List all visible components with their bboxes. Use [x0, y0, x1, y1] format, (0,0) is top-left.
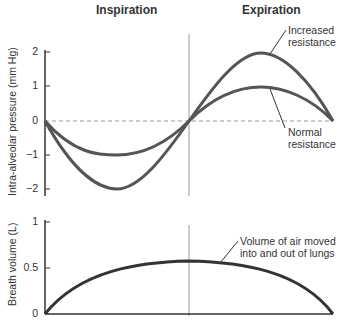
bottom-y-label: Breath volume (L) — [6, 223, 18, 306]
tick-label: 0 — [8, 307, 38, 319]
chart-svg — [0, 0, 347, 326]
chart-root: Inspiration Expiration 2 1 0 −1 −2 Intra… — [0, 0, 347, 326]
annotation-volume: Volume of air moved into and out of lung… — [240, 235, 336, 259]
header-expiration: Expiration — [242, 3, 301, 17]
top-y-label: Intra-alveolar pressure (mm Hg) — [6, 47, 18, 196]
annotation-increased: Increased resistance — [288, 24, 336, 48]
annotation-normal: Normal resistance — [288, 126, 336, 150]
header-inspiration: Inspiration — [96, 3, 157, 17]
